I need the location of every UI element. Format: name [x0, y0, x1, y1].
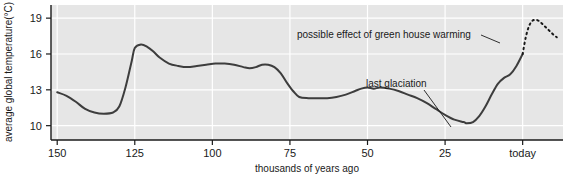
x-tick-label-150: 150 [48, 147, 66, 159]
x-tick-label-125: 125 [126, 147, 144, 159]
greenhouse-annotation-label: possible effect of green house warming [297, 29, 471, 40]
plot-area-background [51, 5, 563, 140]
chart-canvas: 19161310 150125100755025today possible e… [0, 0, 567, 178]
x-axis-title: thousands of years ago [255, 163, 359, 174]
y-tick-label-16: 16 [30, 48, 42, 60]
x-tick-label-today: today [509, 147, 536, 159]
x-tick-label-50: 50 [361, 147, 373, 159]
glaciation-annotation-label: last glaciation [366, 78, 427, 89]
y-tick-label-13: 13 [30, 84, 42, 96]
x-tick-label-75: 75 [284, 147, 296, 159]
temperature-chart-figure: 19161310 150125100755025today possible e… [0, 0, 567, 178]
x-tick-label-100: 100 [203, 147, 221, 159]
x-tick-label-25: 25 [439, 147, 451, 159]
y-axis-title: average global temperature(°C) [3, 2, 14, 142]
y-tick-label-10: 10 [30, 120, 42, 132]
y-tick-label-19: 19 [30, 12, 42, 24]
